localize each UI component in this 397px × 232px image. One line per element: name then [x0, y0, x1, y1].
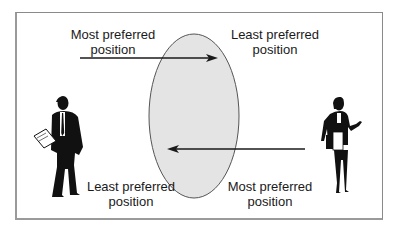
- label-line: Most preferred: [226, 179, 314, 194]
- label-least-preferred-left: Least preferred position: [86, 179, 176, 209]
- label-line: position: [226, 194, 314, 209]
- diagram-canvas: [0, 0, 397, 232]
- label-line: Least preferred: [230, 27, 320, 42]
- label-line: position: [230, 42, 320, 57]
- businessman-icon: [34, 96, 83, 197]
- label-line: position: [69, 42, 157, 57]
- label-least-preferred-right: Least preferred position: [230, 27, 320, 57]
- label-line: position: [86, 194, 176, 209]
- label-most-preferred-right: Most preferred position: [226, 179, 314, 209]
- label-most-preferred-left: Most preferred position: [69, 27, 157, 57]
- label-line: Least preferred: [86, 179, 176, 194]
- label-line: Most preferred: [69, 27, 157, 42]
- businesswoman-icon: [321, 97, 362, 193]
